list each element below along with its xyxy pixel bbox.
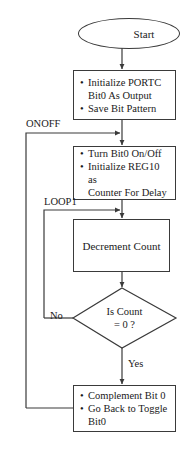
node-decision-label: Is Count = 0 ?: [73, 288, 176, 348]
node-complement-item: Complement Bit 0: [80, 389, 170, 402]
node-complement-items: Complement Bit 0 Go Back to Toggle Bit0: [80, 389, 170, 428]
connector-label-onoff: ONOFF: [26, 118, 60, 130]
node-decision-line1: Is Count: [107, 305, 143, 318]
flowchart-canvas: Start Initialize PORTC Bit0 As Output Sa…: [0, 0, 186, 459]
node-init-item: Initialize PORTC Bit0 As Output: [80, 76, 170, 102]
node-init: Initialize PORTC Bit0 As Output Save Bit…: [73, 70, 176, 120]
node-complement: Complement Bit 0 Go Back to Toggle Bit0: [73, 385, 176, 432]
node-start-label: Start: [104, 28, 155, 40]
connector-label-loop1: LOOP1: [44, 196, 77, 208]
node-decision-line2: = 0 ?: [114, 318, 135, 331]
node-toggle-item: Initialize REG10 as Counter For Delay: [80, 160, 170, 199]
connector-label-no: No: [50, 310, 63, 322]
node-decrement: Decrement Count: [73, 219, 170, 272]
node-complement-item: Go Back to Toggle Bit0: [80, 402, 170, 428]
connector-label-yes: Yes: [128, 358, 143, 370]
node-toggle: Turn Bit0 On/Off Initialize REG10 as Cou…: [73, 146, 176, 200]
node-toggle-items: Turn Bit0 On/Off Initialize REG10 as Cou…: [80, 147, 170, 199]
node-toggle-item: Turn Bit0 On/Off: [80, 147, 170, 160]
node-init-items: Initialize PORTC Bit0 As Output Save Bit…: [80, 76, 170, 115]
node-decrement-label: Decrement Count: [83, 240, 161, 252]
node-init-item: Save Bit Pattern: [80, 102, 170, 115]
node-decision: Is Count = 0 ?: [73, 288, 176, 348]
node-start: Start: [78, 18, 180, 49]
